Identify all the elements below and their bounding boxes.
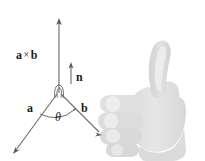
cross-product-figure: a×b n a b θ xyxy=(0,0,205,161)
vector-diagram xyxy=(0,0,205,161)
label-a-cross-b: a×b xyxy=(16,49,38,61)
label-a: a xyxy=(27,102,33,114)
label-b: b xyxy=(81,102,88,114)
hand-knuckle-index xyxy=(106,96,120,112)
vector-a-shaft xyxy=(16,94,57,150)
arrowhead-a xyxy=(13,147,20,154)
hand-knuckle-middle xyxy=(104,113,118,129)
label-a-cross-b-right: b xyxy=(31,48,38,62)
label-a-cross-b-left: a xyxy=(16,48,23,62)
right-hand-thumbs-up-icon xyxy=(98,40,186,161)
vector-b-shaft xyxy=(61,94,99,132)
hand-knuckle-ring xyxy=(106,129,120,143)
label-n: n xyxy=(76,71,83,83)
cross-product-symbol-icon: × xyxy=(23,49,31,60)
angle-arc-endpoint-dot xyxy=(73,108,75,110)
hand-knuckle-little xyxy=(111,144,123,156)
label-theta: θ xyxy=(55,111,61,123)
